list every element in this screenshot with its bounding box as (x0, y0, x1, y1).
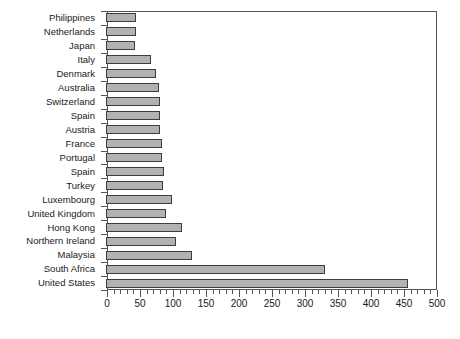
bar (106, 111, 160, 120)
bar-row (107, 109, 437, 123)
bar (106, 83, 159, 92)
x-tick-minor (246, 290, 247, 294)
bar-row (107, 67, 437, 81)
x-tick-major (404, 290, 405, 297)
x-tick-minor (391, 290, 392, 294)
y-axis-label: Austria (0, 123, 101, 137)
x-tick-minor (331, 290, 332, 294)
x-tick-minor (127, 290, 128, 294)
x-tick-minor (199, 290, 200, 294)
y-axis-label: Switzerland (0, 95, 101, 109)
x-axis-label: 250 (264, 299, 281, 309)
y-axis-label: South Africa (0, 262, 101, 276)
x-tick-minor (193, 290, 194, 294)
bar-row (107, 276, 437, 290)
x-tick-minor (226, 290, 227, 294)
y-axis-label: Australia (0, 81, 101, 95)
bar-row (107, 262, 437, 276)
bar (106, 153, 162, 162)
x-tick-major (371, 290, 372, 297)
x-tick-minor (265, 290, 266, 294)
x-tick-minor (153, 290, 154, 294)
bar (106, 237, 176, 246)
x-tick-minor (219, 290, 220, 294)
x-tick-minor (417, 290, 418, 294)
y-axis-label: Northern Ireland (0, 234, 101, 248)
bar (106, 209, 166, 218)
x-tick-minor (147, 290, 148, 294)
x-tick-minor (114, 290, 115, 294)
bar-row (107, 123, 437, 137)
x-tick-minor (166, 290, 167, 294)
x-tick-minor (351, 290, 352, 294)
x-axis-label: 200 (231, 299, 248, 309)
bar (106, 13, 136, 22)
x-tick-minor (292, 290, 293, 294)
bar-row (107, 81, 437, 95)
x-tick-minor (358, 290, 359, 294)
x-tick-minor (279, 290, 280, 294)
x-tick-minor (252, 290, 253, 294)
bar-row (107, 151, 437, 165)
bar-row (107, 248, 437, 262)
y-axis-label: Japan (0, 39, 101, 53)
x-tick-minor (232, 290, 233, 294)
x-tick-minor (318, 290, 319, 294)
x-tick-major (173, 290, 174, 297)
y-axis-label: Hong Kong (0, 220, 101, 234)
bar-row (107, 137, 437, 151)
x-axis-label: 150 (198, 299, 215, 309)
x-axis-tick-marks (107, 290, 438, 298)
bar-row (107, 95, 437, 109)
x-tick-minor (312, 290, 313, 294)
y-axis-category-labels: PhilippinesNetherlandsJapanItalyDenmarkA… (0, 11, 101, 290)
x-tick-minor (259, 290, 260, 294)
x-tick-minor (430, 290, 431, 294)
y-axis-label: Philippines (0, 11, 101, 25)
x-axis-tick-labels: 050100150200250300350400450500 (0, 299, 460, 315)
bar-series (107, 11, 437, 290)
y-axis-label: Spain (0, 164, 101, 178)
x-tick-minor (384, 290, 385, 294)
x-tick-major (140, 290, 141, 297)
x-tick-minor (160, 290, 161, 294)
bar-row (107, 164, 437, 178)
x-axis-label: 400 (363, 299, 380, 309)
x-axis-label: 300 (297, 299, 314, 309)
x-tick-minor (397, 290, 398, 294)
x-tick-major (107, 290, 108, 297)
y-axis-label: Malaysia (0, 248, 101, 262)
x-tick-minor (186, 290, 187, 294)
x-axis-label: 0 (104, 299, 110, 309)
bar (106, 167, 164, 176)
x-axis-label: 500 (429, 299, 446, 309)
bar (106, 97, 160, 106)
y-axis-label: Luxembourg (0, 192, 101, 206)
x-tick-major (338, 290, 339, 297)
x-tick-major (305, 290, 306, 297)
bar (106, 195, 172, 204)
x-axis-label: 50 (134, 299, 145, 309)
bar (106, 265, 325, 274)
x-tick-minor (120, 290, 121, 294)
y-axis-label: Italy (0, 53, 101, 67)
bar (106, 279, 408, 288)
y-axis-label: France (0, 137, 101, 151)
x-tick-minor (364, 290, 365, 294)
x-tick-major (437, 290, 438, 297)
y-axis-label: United Kingdom (0, 206, 101, 220)
x-tick-minor (180, 290, 181, 294)
y-axis-label: United States (0, 276, 101, 290)
bar (106, 41, 135, 50)
bar-row (107, 53, 437, 67)
bar (106, 181, 163, 190)
x-tick-minor (411, 290, 412, 294)
bar-row (107, 234, 437, 248)
x-tick-major (272, 290, 273, 297)
bar-row (107, 206, 437, 220)
bar-row (107, 25, 437, 39)
bar (106, 69, 156, 78)
x-axis-label: 350 (330, 299, 347, 309)
bar-row (107, 178, 437, 192)
x-tick-minor (285, 290, 286, 294)
